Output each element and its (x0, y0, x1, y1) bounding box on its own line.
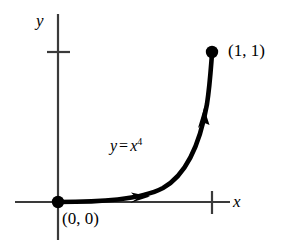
endpoint-point-marker (206, 46, 218, 58)
plot-canvas (0, 0, 285, 248)
curve-equation-label: y=x4 (110, 138, 142, 154)
y-axis-label: y (36, 12, 44, 29)
curve-equation-exponent: 4 (137, 136, 142, 147)
curve-equation-equals: = (117, 137, 130, 154)
endpoint-point-label: (1, 1) (228, 42, 265, 59)
origin-point-label: (0, 0) (62, 210, 99, 227)
x-axis-label: x (233, 193, 241, 210)
origin-point-marker (52, 196, 64, 208)
graph-figure: y x (0, 0) (1, 1) y=x4 (0, 0, 285, 248)
curve-path (58, 54, 212, 202)
